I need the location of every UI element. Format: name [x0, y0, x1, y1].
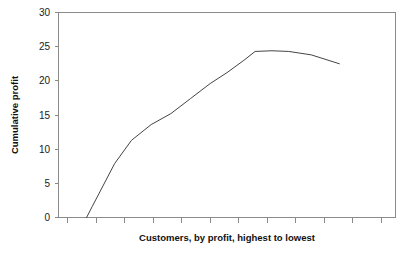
y-axis-title-group: Cumulative profit — [9, 75, 20, 154]
y-tick-label-30: 30 — [39, 7, 51, 18]
cumulative-profit-line-chart: 30 25 20 15 10 5 0 Cumulative prof — [0, 0, 411, 254]
y-tick-label-0: 0 — [44, 212, 50, 223]
y-tick-label-25: 25 — [39, 41, 51, 52]
y-tick-label-20: 20 — [39, 75, 51, 86]
y-tick-label-10: 10 — [39, 144, 51, 155]
chart-background — [0, 0, 411, 254]
y-tick-label-5: 5 — [44, 178, 50, 189]
x-axis-title-group: Customers, by profit, highest to lowest — [139, 232, 316, 243]
y-tick-label-15: 15 — [39, 110, 51, 121]
x-axis-title: Customers, by profit, highest to lowest — [139, 232, 316, 243]
chart-figure: 30 25 20 15 10 5 0 Cumulative prof — [0, 0, 411, 254]
y-axis-title: Cumulative profit — [9, 75, 20, 154]
